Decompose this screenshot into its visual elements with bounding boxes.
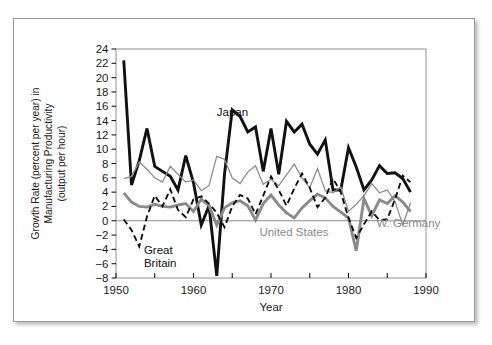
y-tick-label: 18 [96,86,109,98]
y-tick-label: −2 [95,229,108,241]
screenshot-root: −8−6−4−202468101214161820222419501960197… [0,0,492,345]
y-tick-label: 0 [102,215,108,227]
series-label-japan: Japan [217,106,248,118]
y-tick-label: −4 [95,243,109,255]
y-tick-label: 6 [102,172,108,184]
y-tick-label: 16 [96,100,109,112]
x-tick-label: 1960 [181,284,207,296]
series-label-w-germany: W. Germany [376,217,440,229]
y-tick-label: 4 [102,186,109,198]
y-tick-label: 2 [102,200,108,212]
x-tick-label: 1970 [258,284,284,296]
series-label-great-britain: Great [144,244,174,256]
y-tick-label: 10 [96,143,109,155]
series-label-united-states: United States [259,226,328,238]
y-tick-label: −8 [95,272,108,284]
y-axis-title-line: Growth Rate (percent per year) in [30,88,41,240]
y-axis-title-line: Manufacturing Productivity [43,103,54,224]
y-tick-label: 14 [96,115,109,127]
x-tick-label: 1980 [336,284,362,296]
y-axis-title-line: (output per hour) [56,126,67,202]
figure-frame: −8−6−4−202468101214161820222419501960197… [13,18,475,322]
x-tick-label: 1950 [103,284,129,296]
x-axis-title: Year [259,301,282,313]
y-tick-label: 24 [96,43,109,55]
growth-rate-line-chart: −8−6−4−202468101214161820222419501960197… [14,19,476,323]
y-tick-label: 12 [96,129,109,141]
y-axis-title: Growth Rate (percent per year) inManufac… [30,88,66,240]
y-tick-label: 8 [102,158,108,170]
x-tick-label: 1990 [413,284,439,296]
series-label-great-britain: Britain [144,257,177,269]
y-tick-label: 20 [96,72,109,84]
chart-figure: −8−6−4−202468101214161820222419501960197… [14,19,476,323]
y-tick-label: 22 [96,57,109,69]
y-tick-label: −6 [95,258,108,270]
